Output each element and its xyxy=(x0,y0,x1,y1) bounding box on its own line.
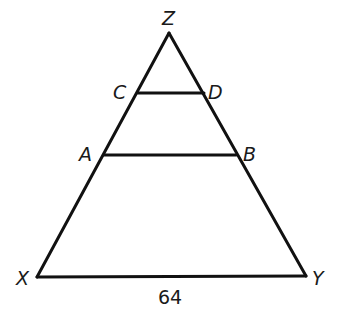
triangle-diagram: Z C D A B X Y 64 xyxy=(0,0,341,318)
base-xy xyxy=(37,276,306,277)
point-label-b: B xyxy=(243,143,256,165)
vertex-label-z: Z xyxy=(161,7,176,29)
vertex-label-y: Y xyxy=(312,267,325,289)
point-label-a: A xyxy=(77,143,92,165)
base-length-label: 64 xyxy=(158,286,182,308)
point-label-d: D xyxy=(208,81,223,103)
vertex-label-x: X xyxy=(15,267,30,289)
point-label-c: C xyxy=(113,81,127,103)
